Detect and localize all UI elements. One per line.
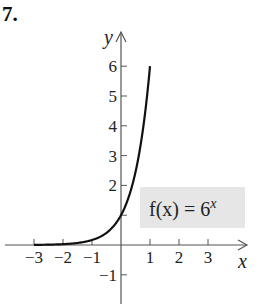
x-tick-label: 3 — [204, 248, 213, 267]
x-tick-label: −2 — [54, 248, 72, 267]
function-curve — [34, 66, 150, 245]
y-tick-label: 3 — [109, 147, 118, 166]
y-axis-label: y — [102, 26, 113, 49]
x-tick-label: −1 — [83, 248, 101, 267]
x-tick-label: 1 — [146, 248, 155, 267]
x-tick-label: −3 — [25, 248, 43, 267]
y-tick-label: 4 — [109, 117, 118, 136]
function-label: f(x) = 6x — [149, 196, 217, 221]
x-axis-label: x — [237, 250, 247, 272]
problem-number: 7. — [2, 2, 18, 27]
chart-figure: 7. f(x) = 6x−3−2−1123−123456xy — [0, 0, 256, 304]
plot-area: f(x) = 6x−3−2−1123−123456xy — [0, 0, 256, 304]
y-tick-label: 2 — [109, 176, 118, 195]
y-tick-label: −1 — [99, 266, 117, 285]
y-tick-label: 5 — [109, 87, 118, 106]
x-tick-label: 2 — [175, 248, 184, 267]
y-tick-label: 6 — [109, 57, 118, 76]
